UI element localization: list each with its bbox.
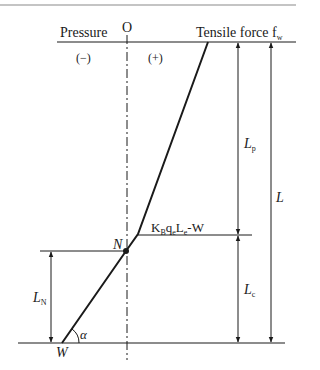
kink-force-label: KBqeLe-W: [151, 221, 204, 237]
positive-sign: (+): [148, 52, 163, 64]
ln-sub: N: [41, 298, 47, 307]
dim-ln-label: LN: [33, 291, 47, 307]
lp-main: L: [244, 136, 252, 151]
point-n-label: N: [113, 238, 122, 252]
lp-sub: p: [252, 144, 256, 153]
negative-sign: (−): [76, 52, 91, 64]
angle-alpha-label: α: [80, 328, 87, 341]
force-curve: [62, 42, 208, 343]
tensile-force-label: Tensile force fw: [196, 26, 282, 42]
tensile-force-text: Tensile force f: [196, 25, 277, 40]
l-text: L: [176, 220, 184, 235]
dim-lc-label: Lc: [244, 283, 255, 299]
dim-l-label: L: [276, 191, 284, 205]
dim-lp-label: Lp: [244, 137, 256, 153]
tensile-force-subscript: w: [277, 33, 283, 42]
ln-main: L: [33, 290, 41, 305]
angle-arc: [72, 329, 79, 343]
origin-label: O: [122, 21, 132, 35]
lc-main: L: [244, 282, 252, 297]
lc-sub: c: [252, 290, 256, 299]
minus-w-text: -W: [187, 220, 204, 235]
point-w-label: W: [56, 346, 68, 360]
pressure-label: Pressure: [60, 26, 107, 40]
k-text: K: [151, 220, 160, 235]
